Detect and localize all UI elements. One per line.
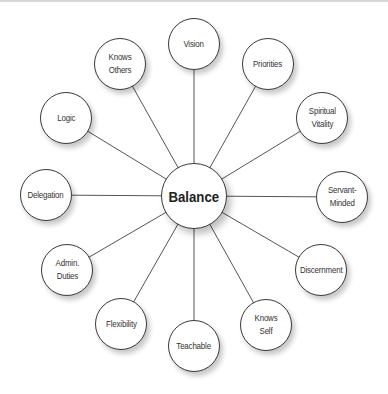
- node-label: Servant- Minded: [328, 184, 357, 210]
- node-label: Vision: [184, 38, 204, 51]
- node-flexibility: Flexibility: [95, 298, 147, 350]
- node-label: Flexibility: [106, 318, 137, 331]
- node-label: Knows Others: [109, 51, 132, 77]
- node-knows-self: Knows Self: [240, 299, 292, 351]
- node-label: Knows Self: [255, 312, 278, 338]
- node-label: Discernment: [300, 264, 343, 277]
- center-node-balance: Balance: [161, 163, 227, 229]
- node-delegation: Delegation: [20, 169, 72, 221]
- node-priorities: Priorities: [242, 38, 294, 90]
- node-teachable: Teachable: [168, 320, 220, 372]
- node-label: Admin. Duties: [55, 257, 79, 283]
- node-servant-minded: Servant- Minded: [316, 171, 368, 223]
- node-logic: Logic: [40, 92, 92, 144]
- node-discernment: Discernment: [295, 244, 347, 296]
- node-label: Logic: [57, 112, 75, 125]
- node-label: Spiritual Vitality: [308, 105, 335, 131]
- node-label: Teachable: [177, 340, 212, 353]
- node-knows-others: Knows Others: [94, 38, 146, 90]
- node-spiritual-vitality: Spiritual Vitality: [296, 92, 348, 144]
- node-admin-duties: Admin. Duties: [41, 244, 93, 296]
- node-label: Delegation: [28, 189, 64, 202]
- center-label: Balance: [169, 190, 220, 203]
- node-label: Priorities: [253, 58, 282, 71]
- node-vision: Vision: [168, 18, 220, 70]
